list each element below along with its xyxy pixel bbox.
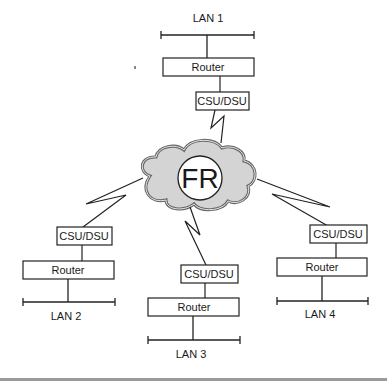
router-1-label: Router xyxy=(191,61,224,73)
site-2: CSU/DSU Router LAN 2 xyxy=(23,178,143,322)
wan-link-1-lightning xyxy=(211,110,224,143)
router-3-label: Router xyxy=(177,301,210,313)
diagram-svg: LAN 1 Router CSU/DSU FR CSU/DSU Router xyxy=(0,0,387,381)
lan-4-segment xyxy=(277,276,368,305)
csu-dsu-4-label: CSU/DSU xyxy=(313,228,363,240)
lan-2-label: LAN 2 xyxy=(51,310,82,322)
lan-1-label: LAN 1 xyxy=(193,12,224,24)
wan-link-4-lightning xyxy=(257,179,330,226)
lan-2-segment xyxy=(23,279,115,306)
wan-link-2-lightning xyxy=(83,178,143,227)
csu-dsu-1-label: CSU/DSU xyxy=(197,95,247,107)
lan-1-segment xyxy=(161,31,254,58)
fr-label: FR xyxy=(181,163,218,194)
frame-relay-cloud: FR xyxy=(142,140,255,209)
csu-dsu-3-label: CSU/DSU xyxy=(184,268,234,280)
frame-relay-diagram: LAN 1 Router CSU/DSU FR CSU/DSU Router xyxy=(0,0,387,381)
site-3: CSU/DSU Router LAN 3 xyxy=(148,207,240,360)
site-1: LAN 1 Router CSU/DSU xyxy=(161,12,254,143)
lan-3-segment xyxy=(148,316,240,344)
csu-dsu-2-label: CSU/DSU xyxy=(59,230,109,242)
router-2-label: Router xyxy=(51,264,84,276)
wan-link-3-lightning xyxy=(185,207,206,265)
site-4: CSU/DSU Router LAN 4 xyxy=(257,179,368,320)
router-4-label: Router xyxy=(305,261,338,273)
speck xyxy=(134,66,136,69)
lan-3-label: LAN 3 xyxy=(176,348,207,360)
lan-4-label: LAN 4 xyxy=(305,308,336,320)
